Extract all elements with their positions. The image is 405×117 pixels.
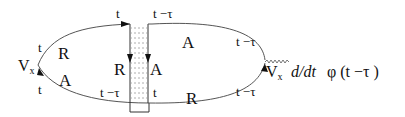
arrow-down-icon (127, 54, 133, 63)
left-vertex-label: Vx (18, 57, 35, 76)
propagator-label: R (114, 60, 126, 79)
right-vertex-label: Vx (266, 63, 283, 82)
propagator-label: A (182, 33, 195, 52)
propagator-label: R (186, 89, 198, 108)
arrow-right-icon (121, 21, 130, 27)
left-upper-propagator-line (38, 24, 130, 65)
time-label: t −τ (236, 84, 255, 99)
propagator-label: A (150, 60, 163, 79)
propagator-label: A (59, 71, 72, 90)
diagram-canvas: Vx t t R A t t −τ R A t −τ t A R t −τ t … (0, 0, 405, 117)
left-lower-propagator-line (38, 65, 149, 103)
time-label: t −τ (153, 6, 172, 21)
time-label: t (116, 6, 120, 21)
time-label: t −τ (100, 85, 119, 100)
derivative-expression: d/dt (291, 63, 316, 80)
time-label: t (38, 40, 42, 55)
propagator-label: R (58, 44, 70, 63)
time-label: t (38, 82, 42, 97)
field-expression: φ (t −τ ) (327, 63, 379, 81)
ladder-rungs (130, 28, 148, 98)
time-label: t −τ (236, 34, 255, 49)
time-label: t (153, 85, 157, 100)
